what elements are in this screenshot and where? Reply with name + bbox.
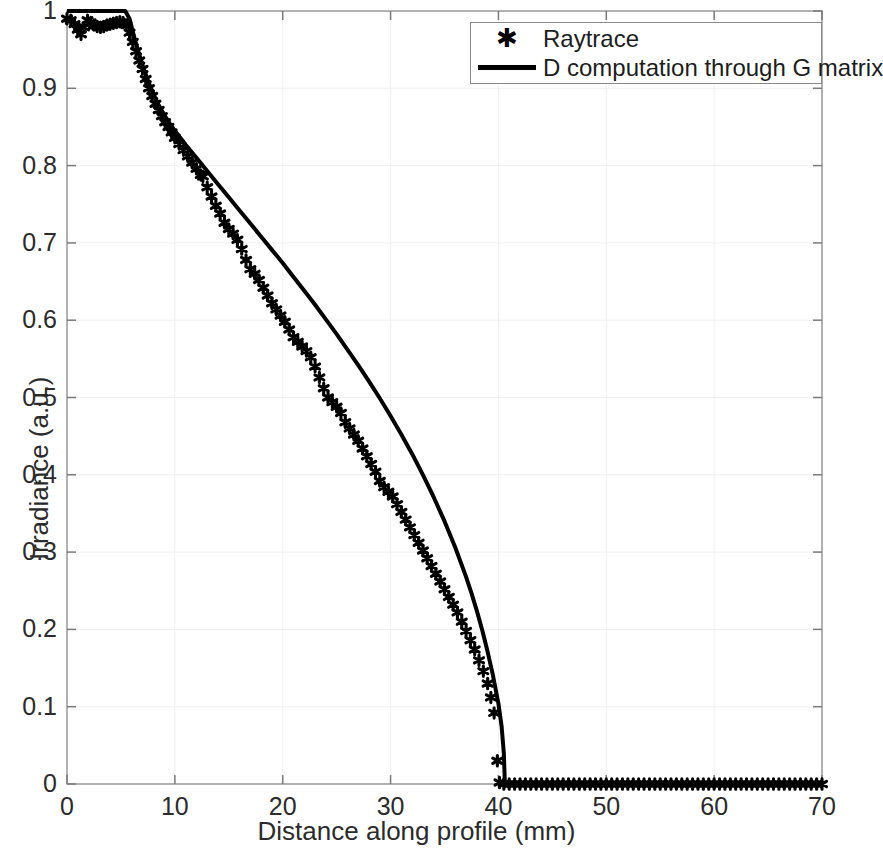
legend-entry-raytrace: ✱ Raytrace bbox=[471, 23, 821, 54]
x-tick-label: 60 bbox=[674, 794, 754, 819]
y-tick-label: 0 bbox=[43, 771, 57, 796]
series-raytrace-markers bbox=[63, 14, 827, 790]
legend-label-d-computation: D computation through G matrix bbox=[543, 54, 883, 82]
x-tick-label: 30 bbox=[351, 794, 431, 819]
y-tick-label: 1 bbox=[43, 0, 57, 23]
y-tick-label: 0.9 bbox=[22, 75, 57, 100]
x-axis-title: Distance along profile (mm) bbox=[0, 818, 833, 844]
y-tick-label: 0.8 bbox=[22, 153, 57, 178]
x-tick-label: 70 bbox=[782, 794, 862, 819]
y-tick-label: 0.4 bbox=[22, 462, 57, 487]
legend-entry-d-computation: D computation through G matrix bbox=[471, 52, 821, 83]
y-tick-label: 0.5 bbox=[22, 385, 57, 410]
y-tick-label: 0.7 bbox=[22, 230, 57, 255]
x-tick-label: 50 bbox=[566, 794, 646, 819]
x-tick-label: 10 bbox=[135, 794, 215, 819]
y-tick-label: 0.6 bbox=[22, 307, 57, 332]
x-tick-label: 0 bbox=[27, 794, 107, 819]
x-tick-label: 40 bbox=[458, 794, 538, 819]
legend-label-raytrace: Raytrace bbox=[543, 25, 639, 53]
x-tick-label: 20 bbox=[243, 794, 323, 819]
solid-line-icon bbox=[471, 65, 543, 70]
legend: ✱ Raytrace D computation through G matri… bbox=[470, 22, 822, 84]
y-tick-label: 0.1 bbox=[22, 694, 57, 719]
y-tick-label: 0.2 bbox=[22, 616, 57, 641]
asterisk-marker-icon: ✱ bbox=[471, 28, 543, 49]
y-tick-label: 0.3 bbox=[22, 539, 57, 564]
gridlines bbox=[67, 11, 822, 784]
